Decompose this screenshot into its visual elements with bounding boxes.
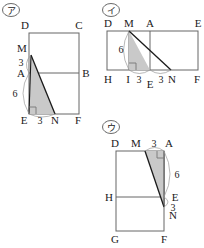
- figure-i-label-A: A: [146, 17, 154, 29]
- figure-a-label-F: F: [75, 114, 81, 126]
- figure-a-label-E: E: [21, 114, 28, 126]
- figure-u-measure-3-right: 3: [171, 202, 176, 213]
- figure-i-measure-3-left: 3: [137, 74, 142, 85]
- figure-a-label-B: B: [82, 67, 89, 79]
- figure-i-label-E-top: E: [195, 17, 202, 29]
- figure-u-label-M: M: [131, 137, 141, 149]
- figure-i-label-I: I: [126, 73, 130, 85]
- figure-i-measure-6: 6: [119, 44, 124, 55]
- figure-i-arc-3-left: [129, 70, 150, 74]
- figure-i-label-M: M: [124, 17, 134, 29]
- figure-a-label-M: M: [17, 42, 27, 54]
- figure-a-arc-6: [23, 73, 29, 114]
- figure-a-measure-3-bottom: 3: [38, 115, 43, 126]
- figure-i-marker: イ: [103, 4, 120, 17]
- figure-a-measure-3-left: 3: [19, 57, 24, 68]
- figure-i-label-D: D: [104, 17, 112, 29]
- figure-u-container: ウ D M A H E N G F 3 6 3: [90, 118, 204, 248]
- figure-a-label-D: D: [21, 19, 29, 31]
- figure-i-arc-6: [124, 31, 130, 70]
- figure-u-measure-6: 6: [175, 169, 180, 180]
- figure-u-marker: ウ: [103, 121, 120, 134]
- figure-u-marker-label: ウ: [107, 123, 116, 133]
- figure-a-container: ア D C M A B E N F 3 6 3: [0, 0, 100, 126]
- figure-u-label-A: A: [165, 137, 173, 149]
- figure-i-container: イ D M A E H I E N F 6 3 3: [100, 0, 204, 96]
- figure-i-svg: イ D M A E H I E N F 6 3 3: [100, 0, 204, 96]
- figure-a-measure-6-left: 6: [13, 88, 18, 99]
- figure-u-arc-3-right: [164, 197, 168, 207]
- figure-a-marker-label: ア: [7, 6, 16, 16]
- figure-u-svg: ウ D M A H E N G F 3 6 3: [90, 118, 204, 248]
- figure-i-label-H: H: [104, 73, 112, 85]
- figure-a-label-C: C: [75, 19, 82, 31]
- figure-i-label-F: F: [194, 73, 200, 85]
- figure-u-label-G: G: [111, 233, 119, 245]
- figure-a-label-N: N: [51, 114, 59, 126]
- figure-u-label-D: D: [111, 137, 119, 149]
- figure-a-svg: ア D C M A B E N F 3 6 3: [0, 0, 100, 126]
- figure-i-label-N: N: [168, 73, 176, 85]
- figure-i-measure-3-right: 3: [159, 74, 164, 85]
- figure-u-label-H: H: [105, 191, 113, 203]
- figure-a-marker: ア: [3, 4, 20, 17]
- figure-i-marker-label: イ: [107, 6, 116, 16]
- figure-u-arc-6: [164, 151, 170, 197]
- figure-u-label-F: F: [161, 233, 167, 245]
- figure-a-label-A: A: [17, 67, 25, 79]
- figure-i-label-E: E: [147, 78, 154, 90]
- figure-u-measure-3-top: 3: [152, 138, 157, 149]
- figure-i-shaded-triangle: [129, 31, 150, 70]
